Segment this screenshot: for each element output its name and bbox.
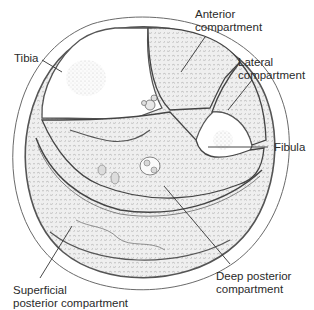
tibia-label: Tibia bbox=[14, 52, 39, 65]
tibia-marrow bbox=[66, 60, 106, 96]
fibula-label: Fibula bbox=[274, 141, 305, 154]
lateral-label-line1: Lateral bbox=[238, 56, 305, 69]
lateral-label-line2: compartment bbox=[238, 69, 305, 82]
anterior-label-line2: compartment bbox=[195, 21, 262, 34]
anterior-label-line1: Anterior bbox=[195, 8, 262, 21]
superficial-label-line1: Superficial bbox=[13, 284, 128, 297]
diagram-canvas bbox=[0, 0, 314, 310]
lateral-compartment-label: Lateral compartment bbox=[238, 56, 305, 82]
deep-posterior-compartment-label: Deep posterior compartment bbox=[216, 270, 291, 296]
superficial-label-line2: posterior compartment bbox=[13, 297, 128, 310]
anterior-compartment-label: Anterior compartment bbox=[195, 8, 262, 34]
leg-cross-section-diagram: Tibia Anterior compartment Lateral compa… bbox=[0, 0, 314, 310]
superficial-posterior-compartment-label: Superficial posterior compartment bbox=[13, 284, 128, 310]
deep-posterior-label-line2: compartment bbox=[216, 283, 291, 296]
deep-posterior-label-line1: Deep posterior bbox=[216, 270, 291, 283]
